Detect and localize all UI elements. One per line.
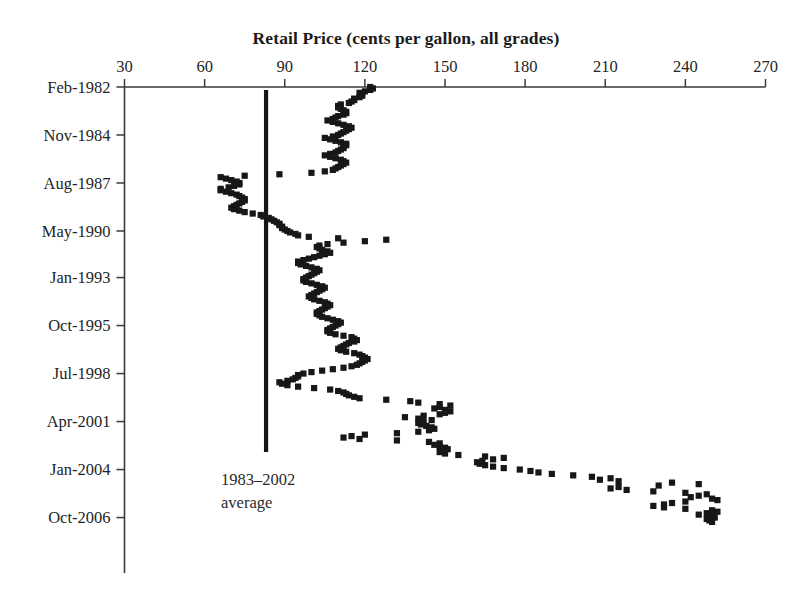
data-point (656, 482, 662, 488)
y-tick-label: May-1990 (42, 222, 111, 241)
data-point (335, 132, 341, 138)
data-point (682, 498, 688, 504)
data-point (228, 190, 234, 196)
y-tick-label: Oct-2006 (48, 508, 110, 527)
data-point (330, 317, 336, 323)
data-point (335, 235, 341, 241)
data-point (327, 154, 333, 160)
data-point (570, 472, 576, 478)
data-point (332, 155, 338, 161)
data-point (340, 434, 346, 440)
data-point (340, 333, 346, 339)
data-point (327, 250, 333, 256)
data-point (426, 427, 432, 433)
data-point (669, 480, 675, 486)
x-tick-label: 180 (513, 57, 538, 76)
data-point (324, 241, 330, 247)
x-tick-group: 306090120150180210240270 (116, 57, 778, 87)
data-point (340, 240, 346, 246)
data-point (346, 392, 352, 398)
y-tick-label: Aug-1987 (44, 174, 111, 193)
data-point (362, 238, 368, 244)
data-point (356, 436, 362, 442)
data-point (300, 370, 306, 376)
data-point (394, 437, 400, 443)
data-point (327, 386, 333, 392)
data-point (482, 462, 488, 468)
data-point (688, 494, 694, 500)
data-point (696, 493, 702, 499)
y-axis-group: Feb-1982Nov-1984Aug-1987May-1990Jan-1993… (42, 78, 125, 574)
data-point (394, 430, 400, 436)
data-point (348, 363, 354, 369)
data-point (607, 475, 613, 481)
data-point (231, 206, 237, 212)
data-point (223, 176, 229, 182)
data-point (308, 264, 314, 270)
data-point (298, 261, 304, 267)
data-point (442, 410, 448, 416)
data-point (311, 254, 317, 260)
data-point (415, 429, 421, 435)
data-point (340, 365, 346, 371)
data-point (228, 177, 234, 183)
data-point (306, 256, 312, 262)
data-point (418, 421, 424, 427)
data-point (338, 347, 344, 353)
data-point (332, 331, 338, 337)
data-point (236, 208, 242, 214)
data-point (490, 456, 496, 462)
data-point (322, 251, 328, 257)
data-point (332, 149, 338, 155)
data-point (597, 477, 603, 483)
data-point (426, 439, 432, 445)
data-point (549, 471, 555, 477)
data-point (527, 468, 533, 474)
data-point (308, 170, 314, 176)
data-point (218, 187, 224, 193)
data-point (437, 443, 443, 449)
x-tick-label: 90 (277, 57, 294, 76)
x-tick-label: 210 (593, 57, 618, 76)
data-point (437, 411, 443, 417)
y-tick-label: Oct-1995 (48, 316, 110, 335)
data-point (714, 497, 720, 503)
data-point (327, 330, 333, 336)
y-tick-label: Apr-2001 (47, 412, 111, 431)
data-point (284, 382, 290, 388)
data-point (650, 503, 656, 509)
data-point (447, 402, 453, 408)
data-point (335, 388, 341, 394)
data-point (308, 369, 314, 375)
plot-area: 306090120150180210240270 Feb-1982Nov-198… (0, 0, 812, 589)
data-point (324, 117, 330, 123)
y-tick-label: Nov-1984 (44, 126, 111, 145)
data-point (303, 263, 309, 269)
data-point (429, 417, 435, 423)
data-point (362, 432, 368, 438)
data-point (709, 519, 715, 525)
annotation-line-2: average (221, 493, 272, 512)
data-point (330, 167, 336, 173)
data-point (332, 138, 338, 144)
data-point (455, 452, 461, 458)
data-point (669, 500, 675, 506)
data-point (346, 100, 352, 106)
data-point (327, 136, 333, 142)
data-point (696, 481, 702, 487)
data-point (431, 405, 437, 411)
data-point (354, 362, 360, 368)
data-point (242, 209, 248, 215)
data-point (682, 490, 688, 496)
data-point (490, 464, 496, 470)
data-point (335, 120, 341, 126)
data-point (351, 338, 357, 344)
data-point (308, 280, 314, 286)
data-point (306, 234, 312, 240)
data-point (260, 213, 266, 219)
data-point (709, 507, 715, 513)
data-point (324, 315, 330, 321)
data-point (501, 455, 507, 461)
data-point (322, 168, 328, 174)
x-tick-label: 240 (673, 57, 698, 76)
